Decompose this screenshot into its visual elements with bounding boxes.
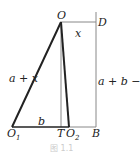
label-x: x [75, 27, 82, 40]
figure-caption: 图 1.1 [50, 144, 73, 153]
segment-OO2 [61, 22, 69, 127]
label-B: B [91, 127, 100, 140]
label-T: T [57, 127, 66, 140]
label-O2: O2 [66, 127, 80, 142]
label-a-plus-x: a + x [9, 72, 39, 85]
label-O: O [57, 9, 66, 22]
label-D: D [97, 16, 107, 29]
label-O1: O1 [7, 127, 21, 142]
geometry-diagram: O D O1 T O2 B x a + x a + b − x b 图 1.1 [0, 0, 140, 154]
label-a-plus-b-minus-x: a + b − x [98, 75, 140, 88]
label-b: b [38, 115, 45, 128]
